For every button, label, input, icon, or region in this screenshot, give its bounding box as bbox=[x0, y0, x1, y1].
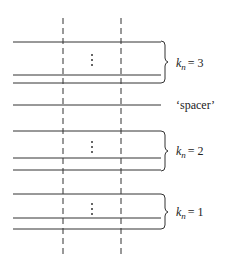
layer-diagram: kn= 3 ‘spacer’ kn= 2 kn= 1 bbox=[0, 0, 225, 267]
vertical-ellipsis-icon bbox=[91, 141, 93, 153]
group-label: kn= 3 bbox=[176, 56, 204, 72]
brace-icon bbox=[161, 131, 168, 171]
brace-icon bbox=[161, 194, 168, 229]
brace-icon bbox=[161, 41, 168, 83]
group-label: kn= 2 bbox=[176, 144, 204, 160]
spacer-row: ‘spacer’ bbox=[13, 98, 215, 112]
group-kn-1: kn= 1 bbox=[13, 194, 204, 229]
vertical-ellipsis-icon bbox=[91, 54, 93, 66]
vertical-ellipsis-icon bbox=[91, 203, 93, 215]
spacer-label: ‘spacer’ bbox=[176, 98, 215, 112]
group-label: kn= 1 bbox=[176, 205, 204, 221]
group-kn-3: kn= 3 bbox=[13, 41, 204, 83]
group-kn-2: kn= 2 bbox=[13, 131, 204, 171]
